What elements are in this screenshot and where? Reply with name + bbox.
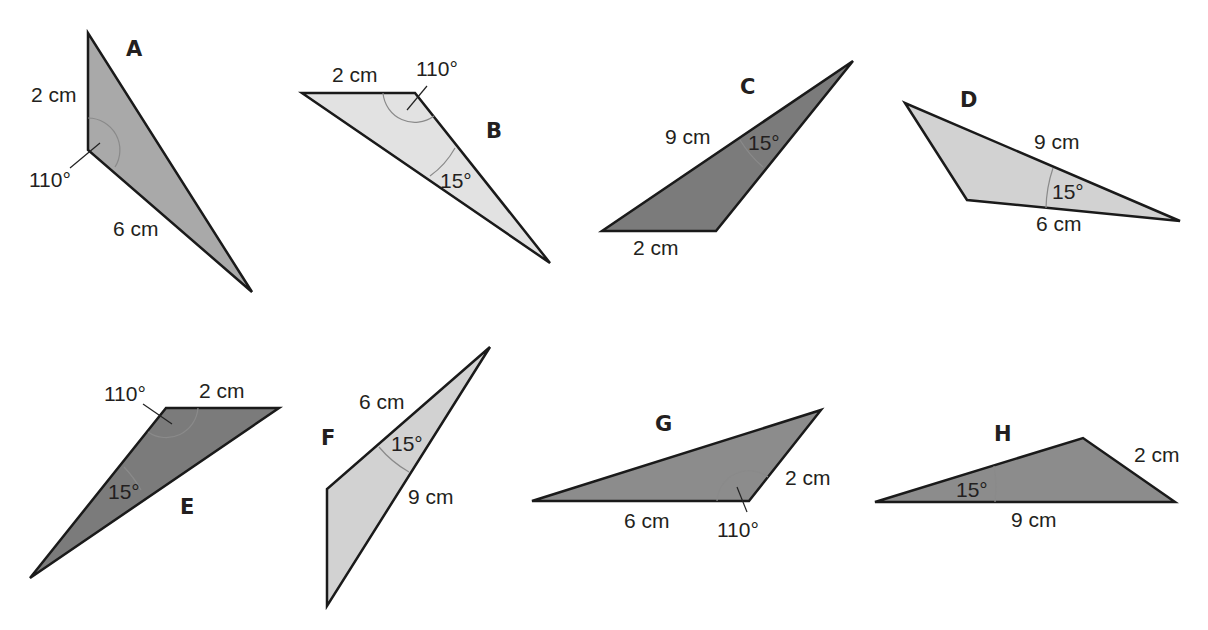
- triangle-b-angle-110: 110°: [416, 57, 458, 80]
- triangle-f-side-6cm: 6 cm: [359, 390, 405, 413]
- triangle-c-side-2cm: 2 cm: [633, 236, 679, 259]
- triangle-c-angle-label: 15°: [748, 131, 780, 154]
- triangle-d: D 9 cm 6 cm 15°: [905, 88, 1180, 235]
- triangle-f: F 6 cm 9 cm 15°: [321, 347, 490, 606]
- triangle-h-shape: [875, 438, 1175, 502]
- triangle-g-side-6cm: 6 cm: [624, 509, 670, 532]
- triangle-e-shape: [30, 408, 279, 578]
- triangle-c-name: C: [740, 75, 755, 99]
- triangle-b-name: B: [486, 119, 502, 143]
- triangle-d-side-9cm: 9 cm: [1034, 130, 1080, 153]
- triangle-f-name: F: [321, 426, 335, 450]
- triangle-d-angle-label: 15°: [1052, 180, 1084, 203]
- triangle-a-shape: [88, 33, 252, 292]
- triangle-d-name: D: [960, 88, 977, 112]
- triangle-h-side-9cm: 9 cm: [1011, 508, 1057, 531]
- triangle-g-shape: [532, 410, 821, 501]
- triangle-f-side-9cm: 9 cm: [408, 485, 454, 508]
- triangle-b-angle-15: 15°: [440, 169, 472, 192]
- triangle-h-angle-label: 15°: [956, 478, 988, 501]
- triangle-e: E 2 cm 110° 15°: [30, 379, 279, 578]
- triangle-g-name: G: [655, 412, 672, 436]
- triangle-e-side-2cm: 2 cm: [199, 379, 245, 402]
- triangle-h-side-2cm: 2 cm: [1134, 443, 1180, 466]
- triangle-a-side-2cm: 2 cm: [31, 83, 77, 106]
- triangle-f-angle-label: 15°: [391, 432, 423, 455]
- triangle-b: B 2 cm 110° 15°: [302, 57, 550, 263]
- triangle-e-angle-15: 15°: [108, 480, 140, 503]
- triangle-b-side-2cm: 2 cm: [332, 63, 378, 86]
- triangle-c-shape: [602, 61, 853, 231]
- triangle-a-side-6cm: 6 cm: [113, 217, 159, 240]
- triangle-e-angle-110: 110°: [104, 382, 146, 405]
- triangle-d-shape: [905, 103, 1180, 221]
- triangle-h: H 2 cm 9 cm 15°: [875, 422, 1180, 531]
- triangle-c: C 9 cm 2 cm 15°: [602, 61, 853, 259]
- triangle-b-shape: [302, 93, 550, 263]
- triangle-d-side-6cm: 6 cm: [1036, 212, 1082, 235]
- triangles-diagram: A 2 cm 6 cm 110° B 2 cm 110° 15° C 9 cm …: [0, 0, 1208, 630]
- triangle-a-angle-label: 110°: [29, 168, 71, 191]
- triangle-g: G 6 cm 2 cm 110°: [532, 410, 831, 541]
- triangle-f-shape: [327, 347, 490, 606]
- triangle-e-name: E: [180, 495, 194, 519]
- triangle-c-side-9cm: 9 cm: [665, 125, 711, 148]
- triangle-g-angle-label: 110°: [717, 518, 759, 541]
- triangle-a: A 2 cm 6 cm 110°: [29, 33, 252, 292]
- triangle-a-name: A: [126, 37, 143, 61]
- triangle-h-name: H: [994, 422, 1012, 446]
- triangle-g-side-2cm: 2 cm: [785, 466, 831, 489]
